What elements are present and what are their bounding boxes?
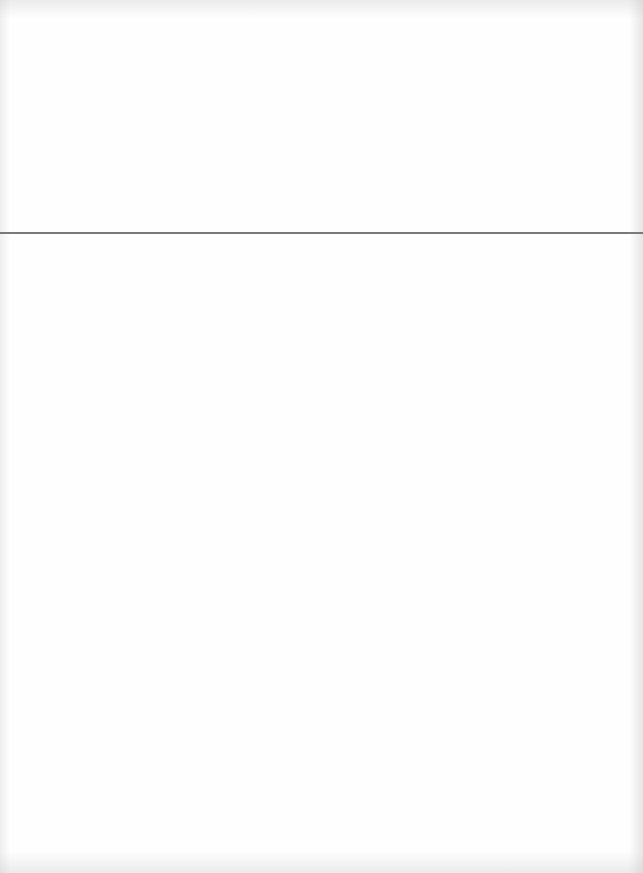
blank-page (0, 0, 643, 873)
horizontal-rule (0, 232, 643, 234)
scan-edge-shading (0, 0, 643, 873)
